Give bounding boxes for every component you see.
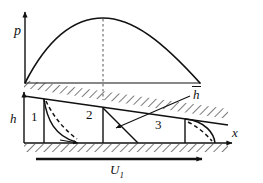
- figure-container: p h x h 1 2 3 U1: [0, 0, 263, 183]
- region-3-label: 3: [155, 118, 162, 131]
- x-axis-label: x: [232, 126, 238, 139]
- region-1-label: 1: [31, 110, 38, 123]
- station-3-reference-profile: [188, 122, 212, 141]
- mean-film-thickness-symbol: h: [192, 88, 201, 101]
- station-1-reference-profile: [46, 101, 77, 139]
- station-1-velocity-profile: [44, 99, 76, 142]
- lower-wall-hatching: [24, 144, 228, 152]
- diagram-canvas: [0, 0, 263, 183]
- wall-velocity-symbol: U: [110, 162, 119, 177]
- station-3-helper: [192, 126, 206, 143]
- film-thickness-axis-label: h: [10, 112, 17, 125]
- mean-film-thickness-label: h: [192, 86, 201, 101]
- pressure-curve: [25, 18, 200, 83]
- wall-velocity-subscript: 1: [119, 170, 124, 180]
- wall-velocity-label: U1: [110, 163, 124, 180]
- region-2-label: 2: [86, 108, 93, 121]
- pressure-axis-label: p: [14, 24, 21, 38]
